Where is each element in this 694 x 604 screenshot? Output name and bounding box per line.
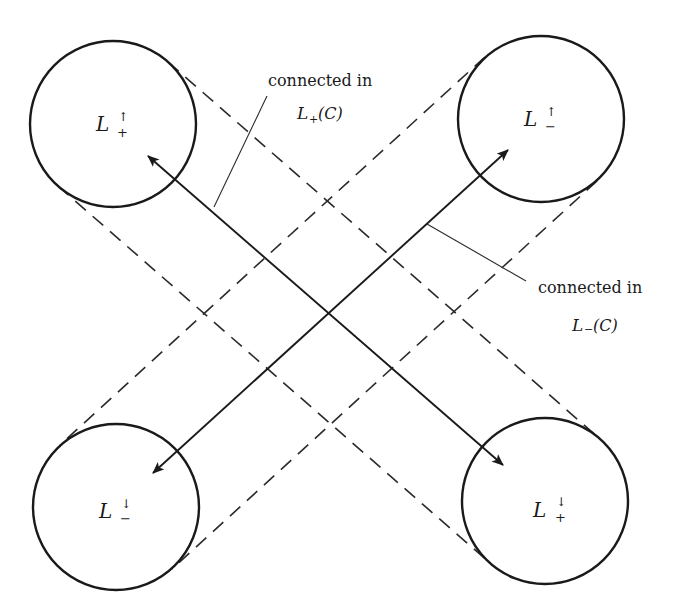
annotation-arg: (C) <box>318 104 343 123</box>
annotation-plus: connected in L + (C) <box>268 71 372 126</box>
annotation-base: L <box>571 315 583 335</box>
label-sub: + <box>555 510 566 525</box>
set-circle-bl <box>33 424 199 590</box>
label-sup: ↑ <box>546 105 556 119</box>
label-sub: + <box>117 125 128 140</box>
annotation-base: L <box>296 103 308 123</box>
node-label-bl: L ↓ − <box>98 497 131 526</box>
label-sup: ↓ <box>121 497 131 511</box>
annotation-line1: connected in <box>538 278 642 297</box>
label-base: L <box>98 499 112 523</box>
set-circle-tl <box>30 41 196 207</box>
leader-line-plus <box>214 96 267 207</box>
set-circle-tr <box>458 36 624 202</box>
annotation-line1: connected in <box>268 71 372 90</box>
label-sub: − <box>120 511 131 526</box>
label-base: L <box>95 112 109 136</box>
label-sup: ↓ <box>556 495 566 509</box>
node-label-tl: L ↑ + <box>95 110 128 140</box>
label-base: L <box>532 498 546 522</box>
connectivity-diagram: L ↑ + L ↑ − L ↓ − L ↓ + connected in L +… <box>0 0 694 604</box>
leader-line-minus <box>427 224 526 281</box>
node-label-br: L ↓ + <box>532 495 566 525</box>
annotation-minus: connected in L − (C) <box>538 278 642 336</box>
label-sub: − <box>545 119 556 134</box>
annotation-sub: − <box>584 323 593 336</box>
label-sup: ↑ <box>118 110 128 124</box>
annotation-arg: (C) <box>593 316 618 335</box>
annotation-sub: + <box>309 113 318 126</box>
node-label-tr: L ↑ − <box>523 105 556 134</box>
label-base: L <box>523 107 537 131</box>
